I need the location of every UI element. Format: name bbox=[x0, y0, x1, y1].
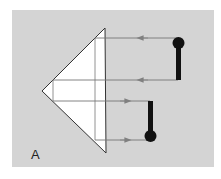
object-ball-icon bbox=[173, 37, 185, 49]
figure-label: A bbox=[31, 147, 40, 162]
image-ball-icon bbox=[145, 130, 157, 142]
prism-triangle bbox=[42, 28, 106, 153]
